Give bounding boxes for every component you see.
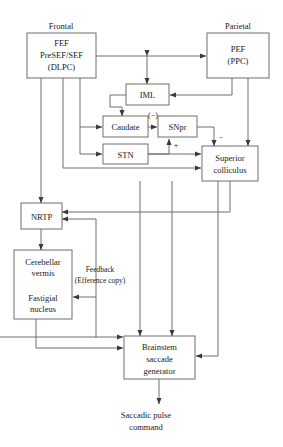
edge-feedback-fastigial [73,297,96,338]
label-stn-snpr-sign: + [174,141,179,150]
header-parietal: Parietal [225,21,252,31]
box-caudate-label: Caudate [112,122,140,132]
box-fef-line3: (DLPC) [48,62,76,72]
box-caudate[interactable]: Caudate [103,116,148,137]
box-brainstem-line2: saccade [146,354,173,364]
box-brainstem[interactable]: Brainstem saccade generator [124,336,195,379]
box-fef-line1: FEF [54,38,69,48]
box-stn-label: STN [117,150,133,160]
box-fef-line2: PreSEF/SEF [40,50,83,60]
box-pef-line1: PEF [231,44,246,54]
box-cerebellum-line2: vermis [31,268,54,278]
box-superior-colliculus[interactable]: Superior colliculus [202,146,258,181]
edge-fastigial-brainstem [36,319,123,348]
box-cerebellum-line1: Cerebellar [25,257,61,267]
output-caption-line1: Saccadic pulse [121,410,171,420]
header-frontal: Frontal [49,21,74,31]
box-sc-line2: colliculus [213,165,246,175]
edge-iml-caudate [110,95,126,116]
saccade-control-diagram: Frontal Parietal (−) + − [0,0,283,447]
box-stn[interactable]: STN [103,144,148,164]
box-snpr[interactable]: SNpr [158,116,197,137]
box-nrtp-label: NRTP [31,212,52,222]
box-nrtp[interactable]: NRTP [21,203,62,229]
box-pef[interactable]: PEF (PPC) [207,33,269,78]
box-snpr-label: SNpr [169,122,187,132]
label-snpr-sc-sign: − [219,133,224,142]
output-caption-line2: command [129,422,163,432]
label-feedback-line2: (Efference copy) [75,276,126,285]
box-brainstem-line3: generator [143,366,175,376]
box-iml-label: IML [140,90,156,100]
label-feedback-line1: Feedback [86,265,115,274]
box-cerebellum[interactable]: Cerebellar vermis Fastigial nucleus [14,250,72,319]
box-iml[interactable]: IML [126,84,169,105]
edge-stn-snpr [148,139,169,154]
edge-superior-colliculus-brainstem [196,181,218,356]
edge-snpr-superior-colliculus [197,127,214,146]
box-sc-line1: Superior [215,153,244,163]
box-brainstem-line1: Brainstem [142,342,177,352]
box-pef-line2: (PPC) [228,56,249,66]
box-fef[interactable]: FEF PreSEF/SEF (DLPC) [27,33,96,78]
box-cerebellum-line3: Fastigial [28,293,58,303]
edge-pef-iml [170,78,232,95]
box-cerebellum-line4: nucleus [30,304,56,314]
edge-superior-colliculus-nrtp [62,181,230,212]
label-caudate-snpr-sign: (−) [148,111,158,120]
